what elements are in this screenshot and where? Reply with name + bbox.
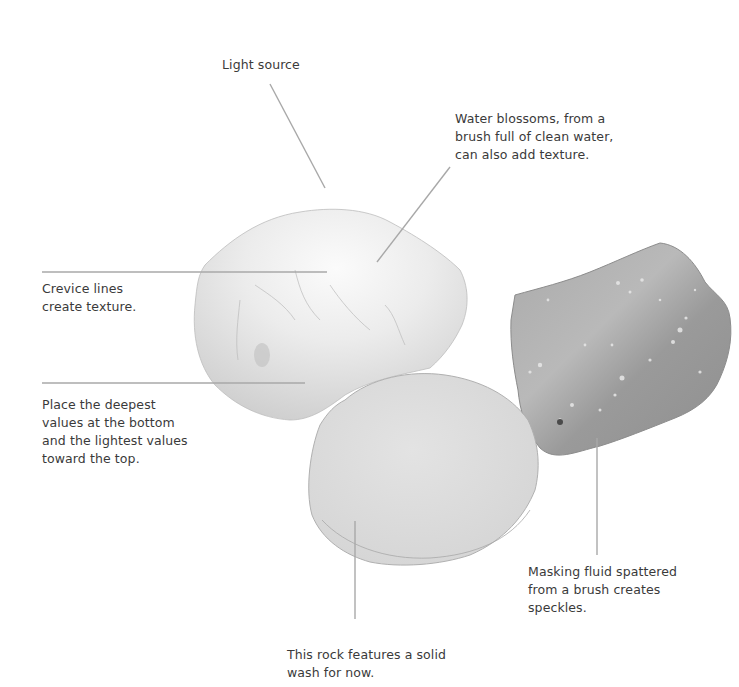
- callout-light-source: Light source: [222, 56, 300, 74]
- callout-text: brush full of clean water,: [455, 128, 613, 146]
- callout-masking-fluid: Masking fluid spattered from a brush cre…: [528, 563, 677, 617]
- callout-text: Masking fluid spattered: [528, 563, 677, 581]
- callout-text: Water blossoms, from a: [455, 110, 613, 128]
- callout-water-blossoms: Water blossoms, from a brush full of cle…: [455, 110, 613, 164]
- callout-deepest-values: Place the deepest values at the bottom a…: [42, 396, 188, 468]
- rock-solid-wash: [309, 374, 538, 566]
- rock-speckled: [511, 243, 731, 455]
- callout-line-light-source: [270, 84, 325, 188]
- callout-text: and the lightest values: [42, 432, 188, 450]
- callout-text: Crevice lines: [42, 280, 136, 298]
- callout-solid-wash: This rock features a solid wash for now.: [287, 646, 446, 682]
- callout-text: Light source: [222, 56, 300, 74]
- callout-text: toward the top.: [42, 450, 188, 468]
- callout-crevice-lines: Crevice lines create texture.: [42, 280, 136, 316]
- callout-text: wash for now.: [287, 664, 446, 682]
- callout-text: Place the deepest: [42, 396, 188, 414]
- callout-text: values at the bottom: [42, 414, 188, 432]
- callout-text: from a brush creates: [528, 581, 677, 599]
- callout-text: speckles.: [528, 599, 677, 617]
- callout-text: can also add texture.: [455, 146, 613, 164]
- callout-text: This rock features a solid: [287, 646, 446, 664]
- callout-text: create texture.: [42, 298, 136, 316]
